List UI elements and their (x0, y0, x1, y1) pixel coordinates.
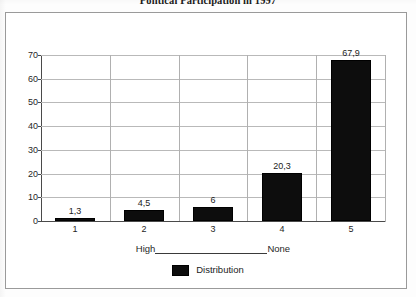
y-tick-label: 10 (12, 193, 38, 202)
x-tick-label: 3 (193, 224, 233, 235)
x-tick-label: 5 (331, 224, 371, 235)
legend-swatch-distribution (172, 265, 189, 276)
x-tick-label: 4 (262, 224, 302, 235)
y-tick-mark (38, 174, 41, 175)
axis-caption-left: High (136, 243, 156, 255)
y-tick-mark (38, 126, 41, 127)
bar[interactable] (124, 210, 164, 221)
y-tick-mark (38, 197, 41, 198)
plot-inner: 1,34,5620,367,9 (41, 55, 385, 221)
y-tick-mark (38, 150, 41, 151)
x-tick-label: 2 (124, 224, 164, 235)
chart-page: Political Participation in 1997 01020304… (0, 0, 416, 297)
y-tick-mark (38, 221, 41, 222)
plot-right-border (385, 55, 386, 222)
gridline-vertical (316, 55, 317, 221)
bar-value-label: 67,9 (321, 48, 381, 58)
bar-value-label: 6 (183, 195, 243, 205)
bar-value-label: 4,5 (114, 198, 174, 208)
y-tick-label: 50 (12, 98, 38, 107)
y-tick-mark (38, 55, 41, 56)
y-tick-label: 0 (12, 217, 38, 226)
y-tick-label: 60 (12, 75, 38, 84)
y-tick-label: 30 (12, 146, 38, 155)
legend-label-distribution: Distribution (196, 264, 244, 276)
gridline-vertical (179, 55, 180, 221)
chart-legend: Distribution (0, 264, 416, 276)
x-axis-baseline (41, 221, 385, 222)
gridline-vertical (110, 55, 111, 221)
bar[interactable] (193, 207, 233, 221)
x-tick-label: 1 (55, 224, 95, 235)
bar-value-label: 20,3 (252, 161, 312, 171)
y-tick-mark (38, 79, 41, 80)
y-tick-mark (38, 102, 41, 103)
axis-caption-rule (155, 253, 267, 254)
plot-area: 1,34,5620,367,9 (41, 55, 385, 221)
y-tick-label: 70 (12, 51, 38, 60)
bar[interactable] (262, 173, 302, 221)
y-tick-label: 40 (12, 122, 38, 131)
bar[interactable] (331, 60, 371, 221)
x-axis-caption: High None (41, 242, 385, 256)
y-axis-tick-labels: 010203040506070 (9, 55, 38, 221)
axis-caption-right: None (267, 243, 290, 255)
gridline-vertical (247, 55, 248, 221)
chart-title: Political Participation in 1997 (0, 0, 416, 8)
y-tick-label: 20 (12, 170, 38, 179)
x-axis-tick-labels: 12345 (41, 224, 385, 238)
bar[interactable] (55, 218, 95, 221)
bar-value-label: 1,3 (45, 206, 105, 216)
